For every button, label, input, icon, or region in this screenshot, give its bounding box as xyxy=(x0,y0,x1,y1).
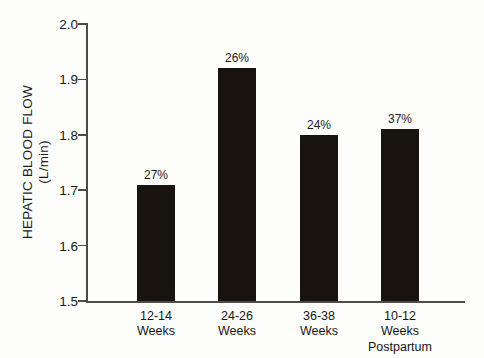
y-tick-mark xyxy=(78,134,86,136)
y-tick-mark xyxy=(78,245,86,247)
y-tick-mark xyxy=(78,300,86,302)
x-cat-label-line: 10-12 xyxy=(341,309,459,324)
bar-value-label: 37% xyxy=(388,112,412,126)
bar-value-label: 24% xyxy=(307,118,331,132)
x-axis-line xyxy=(86,301,465,303)
y-axis-title: HEPATIC BLOOD FLOW (L/min) xyxy=(14,12,58,312)
y-axis-title-line-2: (L/min) xyxy=(36,140,52,183)
bar xyxy=(137,185,175,301)
y-tick-mark xyxy=(78,23,86,25)
bar-chart: HEPATIC BLOOD FLOW (L/min) 1.51.61.71.81… xyxy=(0,0,484,358)
y-tick-mark xyxy=(78,189,86,191)
y-tick-label: 2.0 xyxy=(44,17,78,32)
y-tick-label: 1.7 xyxy=(44,183,78,198)
bar xyxy=(218,68,256,301)
x-cat-label-line: Postpartum xyxy=(341,340,459,355)
bar xyxy=(381,129,419,301)
x-cat-label: 10-12WeeksPostpartum xyxy=(341,309,459,355)
bar-value-label: 26% xyxy=(225,51,249,65)
y-tick-label: 1.9 xyxy=(44,72,78,87)
y-tick-label: 1.6 xyxy=(44,238,78,253)
bar-value-label: 27% xyxy=(144,168,168,182)
plot-area xyxy=(86,24,465,301)
y-tick-label: 1.5 xyxy=(44,294,78,309)
y-axis-title-line-1: HEPATIC BLOOD FLOW xyxy=(20,85,36,239)
bar xyxy=(300,135,338,301)
y-tick-mark xyxy=(78,79,86,81)
y-tick-label: 1.8 xyxy=(44,127,78,142)
x-cat-label-line: Weeks xyxy=(341,324,459,339)
